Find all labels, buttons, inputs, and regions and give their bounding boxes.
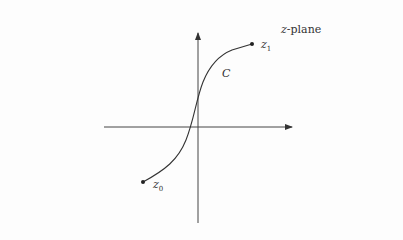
end-point-label: z1 [260,38,271,53]
curve-label: C [222,67,231,80]
diagram-svg: z-plane C z1 z0 [0,0,403,240]
plane-label: z-plane [280,23,321,36]
complex-plane-diagram: z-plane C z1 z0 [0,0,403,240]
start-point-dot [141,180,145,184]
end-point-dot [250,42,254,46]
start-point-label: z0 [152,178,163,193]
